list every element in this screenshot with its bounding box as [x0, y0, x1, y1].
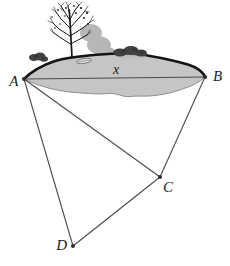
vertex-dot-A — [22, 77, 26, 81]
vertex-dot-D — [71, 244, 75, 248]
bushes-top-icon — [113, 46, 147, 57]
label-C: C — [163, 179, 174, 195]
geometry-figure: A B C D x — [0, 0, 230, 266]
diagram-canvas: A B C D x — [0, 0, 230, 266]
survey-segments — [24, 77, 205, 246]
label-A: A — [8, 73, 19, 89]
vertex-dot-C — [158, 175, 162, 179]
vertex-dots — [22, 75, 207, 248]
vertex-dot-B — [203, 75, 207, 79]
label-D: D — [55, 237, 67, 253]
bush-left-icon — [29, 53, 48, 62]
segment-DC — [73, 177, 160, 246]
label-x: x — [112, 62, 120, 77]
segment-AD — [24, 79, 73, 246]
label-B: B — [213, 68, 222, 84]
